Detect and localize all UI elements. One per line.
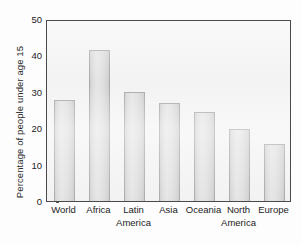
y-tick-label: 10 [18,161,42,171]
x-tick-label-line1: Latin [123,204,144,215]
x-tick-label: Europe [252,204,295,217]
x-tick-label-line2: America [112,217,155,230]
bar [159,103,180,201]
y-tick-label: 20 [18,124,42,134]
y-tick-mark [56,202,59,203]
bar-chart-figure: Percentage of people under age 15 010203… [0,0,302,244]
bar [229,129,250,201]
x-tick-label-line1: Africa [86,204,110,215]
x-tick-label-line1: World [51,204,76,215]
bar [194,112,215,201]
y-tick-label: 30 [18,88,42,98]
bar [54,100,75,201]
bar-series [47,21,290,201]
bar [124,92,145,201]
x-tick-label-line1: Europe [258,204,289,215]
y-tick-label: 50 [18,15,42,25]
y-tick-label: 0 [18,197,42,207]
x-tick-label-line2: America [217,217,260,230]
y-tick-label: 40 [18,51,42,61]
x-axis-labels: WorldAfricaLatinAmericaAsiaOceaniaNorthA… [46,204,291,244]
x-tick-label-line1: North [227,204,250,215]
x-tick-label-line1: Oceania [186,204,221,215]
bar [264,144,285,201]
x-tick-label-line1: Asia [159,204,177,215]
y-axis-ticks: 01020304050 [14,0,42,244]
bar [89,50,110,201]
plot-area [46,20,291,202]
